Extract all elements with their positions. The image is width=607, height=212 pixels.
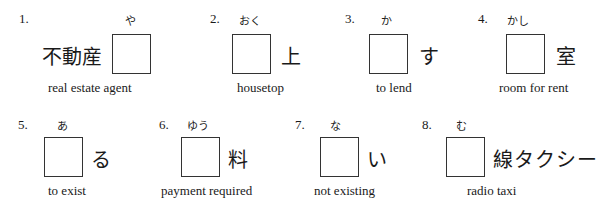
word-suffix: 上 <box>281 41 301 70</box>
furigana: かし <box>507 12 529 28</box>
meaning-label: payment required <box>161 183 252 199</box>
item-number: 8. <box>422 117 432 133</box>
word-suffix: 料 <box>228 144 248 173</box>
furigana: む <box>456 117 467 133</box>
answer-box[interactable] <box>506 34 545 74</box>
meaning-label: to lend <box>376 80 412 96</box>
word-suffix: 線タクシー <box>493 144 598 173</box>
word-prefix: 不動産 <box>42 41 102 70</box>
furigana: あ <box>57 117 68 133</box>
item-number: 7. <box>295 117 305 133</box>
word-suffix: 室 <box>556 41 576 70</box>
answer-box[interactable] <box>112 34 151 74</box>
answer-box[interactable] <box>320 137 359 177</box>
answer-box[interactable] <box>232 34 271 74</box>
meaning-label: real estate agent <box>48 80 132 96</box>
furigana: か <box>381 12 392 28</box>
furigana: ゆう <box>187 117 209 133</box>
meaning-label: housetop <box>237 80 284 96</box>
item-number: 6. <box>159 117 169 133</box>
meaning-label: to exist <box>48 183 86 199</box>
word-suffix: い <box>367 144 387 173</box>
word-suffix: す <box>419 41 439 70</box>
meaning-label: radio taxi <box>467 183 516 199</box>
meaning-label: room for rent <box>499 80 568 96</box>
item-number: 2. <box>210 11 220 27</box>
answer-box[interactable] <box>369 34 408 74</box>
furigana: おく <box>239 12 261 28</box>
furigana: な <box>330 117 341 133</box>
answer-box[interactable] <box>181 137 220 177</box>
answer-box[interactable] <box>44 137 83 177</box>
item-number: 4. <box>478 11 488 27</box>
furigana: や <box>125 12 136 28</box>
answer-box[interactable] <box>446 137 485 177</box>
meaning-label: not existing <box>314 183 375 199</box>
item-number: 1. <box>19 11 29 27</box>
item-number: 3. <box>345 11 355 27</box>
item-number: 5. <box>18 117 28 133</box>
word-suffix: る <box>91 144 111 173</box>
